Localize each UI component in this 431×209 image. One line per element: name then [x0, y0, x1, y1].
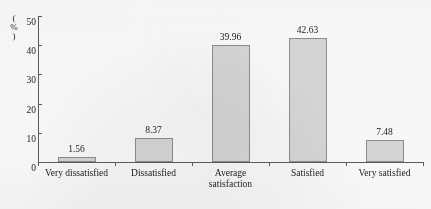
bar	[135, 138, 173, 162]
y-tick-mark	[38, 16, 42, 17]
y-tick-mark	[38, 133, 42, 134]
y-tick-label: 30	[0, 69, 36, 87]
y-tick-label: 20	[0, 99, 36, 117]
x-tick-mark	[115, 162, 116, 166]
y-tick-label: 10	[0, 128, 36, 146]
y-axis-line	[38, 16, 39, 162]
x-category-label-line: Very satisfied	[340, 168, 430, 179]
x-axis-line	[38, 162, 423, 163]
bar-value-label: 39.96	[201, 33, 261, 43]
y-tick-mark	[38, 104, 42, 105]
bar-chart: (%) 01020304050 1.568.3739.9642.637.48 V…	[0, 0, 431, 209]
bar-value-label: 1.56	[47, 145, 107, 155]
y-tick-mark	[38, 74, 42, 75]
y-tick-label: 50	[0, 11, 36, 29]
x-category-label-line: satisfaction	[186, 179, 276, 190]
x-tick-mark	[346, 162, 347, 166]
bar-value-label: 8.37	[124, 126, 184, 136]
x-category-label: Very satisfied	[340, 168, 430, 179]
x-tick-mark	[38, 162, 39, 166]
x-tick-mark	[269, 162, 270, 166]
bar	[366, 140, 404, 162]
bar-value-label: 7.48	[355, 128, 415, 138]
y-tick-mark	[38, 45, 42, 46]
x-tick-mark	[423, 162, 424, 166]
y-tick-label: 40	[0, 40, 36, 58]
bar-value-label: 42.63	[278, 26, 338, 36]
bar	[58, 157, 96, 162]
bar	[289, 38, 327, 162]
bar	[212, 45, 250, 162]
x-tick-mark	[192, 162, 193, 166]
